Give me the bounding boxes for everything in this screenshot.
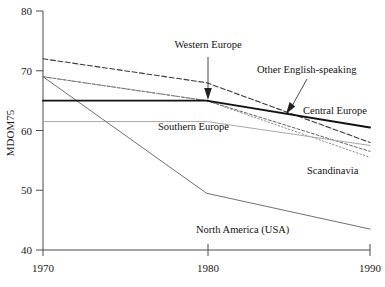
- other-english-speaking-arrow-head: [286, 102, 295, 114]
- other-english-speaking-arrow-shaft: [292, 79, 307, 106]
- y-tick-label-50: 50: [21, 184, 33, 196]
- line-chart: 80 70 60 50 40 1970 1980 1990 MDOM75 Wes…: [0, 0, 385, 287]
- y-tick-label-70: 70: [21, 65, 33, 77]
- series-label-other-english-speaking: Other English-speaking: [257, 64, 357, 75]
- chart-container: 80 70 60 50 40 1970 1980 1990 MDOM75 Wes…: [0, 0, 385, 287]
- series-label-north-america: North America (USA): [196, 224, 290, 236]
- x-tick-label-1980: 1980: [197, 262, 220, 274]
- x-tick-label-1970: 1970: [32, 262, 55, 274]
- y-axis-title: MDOM75: [4, 109, 16, 156]
- y-tick-label-80: 80: [21, 5, 33, 17]
- series-line-north-america: [43, 77, 370, 229]
- series-group: [43, 59, 370, 229]
- series-label-central-europe: Central Europe: [303, 105, 367, 116]
- x-tick-label-1990: 1990: [359, 262, 382, 274]
- series-label-scandinavia: Scandinavia: [307, 165, 359, 176]
- western-europe-arrow-head: [204, 88, 212, 100]
- y-tick-label-60: 60: [21, 125, 33, 137]
- series-label-southern-europe: Southern Europe: [158, 121, 229, 132]
- y-tick-label-40: 40: [21, 244, 33, 256]
- series-label-western-europe: Western Europe: [174, 39, 241, 50]
